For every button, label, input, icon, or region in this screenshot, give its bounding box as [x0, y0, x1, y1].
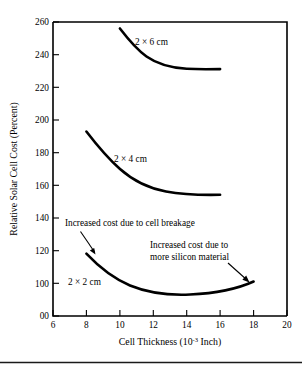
x-axis-ticks	[53, 310, 287, 316]
y-axis-title-text: Relative Solar Cell Cost (Percent)	[8, 102, 20, 235]
figure-container: 260 240 220 200 180 160 140 120 100 00 6…	[0, 0, 302, 374]
x-axis-title: Cell Thickness (10-3 Inch)	[119, 336, 221, 348]
curve-2x4cm	[86, 132, 220, 195]
y-tick-label-180: 180	[35, 148, 49, 158]
x-tick-label-12: 12	[149, 320, 159, 330]
x-tick-label-8: 8	[84, 320, 89, 330]
y-tick-label-220: 220	[35, 83, 49, 93]
series-label-2x2cm: 2 × 2 cm	[68, 277, 102, 287]
series-label-2x6cm: 2 × 6 cm	[135, 37, 169, 47]
x-tick-label-20: 20	[282, 320, 292, 330]
y-axis-tick-labels: 260 240 220 200 180 160 140 120 100 00	[35, 17, 49, 321]
x-tick-label-10: 10	[115, 320, 125, 330]
y-tick-label-100: 100	[35, 279, 49, 289]
silicon-annotation-line1: Increased cost due to	[150, 240, 229, 250]
x-tick-label-16: 16	[215, 320, 225, 330]
x-tick-label-18: 18	[249, 320, 259, 330]
y-tick-label-120: 120	[35, 246, 49, 256]
y-tick-label-140: 140	[35, 213, 49, 223]
y-tick-label-80: 00	[40, 311, 50, 321]
breakage-annotation-leader	[81, 232, 95, 253]
y-tick-label-240: 240	[35, 50, 49, 60]
x-axis-tick-labels: 6 8 10 12 14 16 18 20	[51, 320, 292, 330]
y-tick-label-260: 260	[35, 17, 49, 27]
silicon-annotation: Increased cost due to more silicon mater…	[150, 240, 250, 283]
silicon-annotation-leader	[228, 263, 247, 280]
x-axis-title-base: Cell Thickness (10	[119, 336, 193, 348]
x-tick-label-6: 6	[51, 320, 56, 330]
breakage-annotation-arrowhead	[90, 248, 96, 255]
y-tick-label-160: 160	[35, 181, 49, 191]
solar-cell-cost-chart: 260 240 220 200 180 160 140 120 100 00 6…	[0, 0, 302, 374]
series-label-2x4cm: 2 × 4 cm	[114, 154, 148, 164]
breakage-annotation-text: Increased cost due to cell breakage	[65, 218, 195, 228]
y-axis-ticks	[53, 22, 59, 316]
silicon-annotation-line2: more silicon material	[150, 252, 229, 262]
y-tick-label-200: 200	[35, 115, 49, 125]
svg-text:Cell Thickness (10-3 Inch): Cell Thickness (10-3 Inch)	[119, 336, 221, 348]
x-tick-label-14: 14	[182, 320, 192, 330]
x-axis-title-tail: Inch)	[198, 336, 221, 348]
y-axis-title: Relative Solar Cell Cost (Percent)	[8, 102, 20, 235]
curve-2x6cm	[120, 29, 220, 70]
